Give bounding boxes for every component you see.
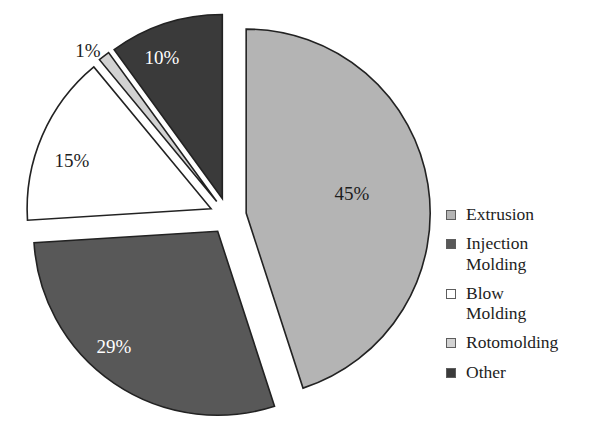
pie-chart-figure: 45%29%15%1%10% ExtrusionInjection Moldin… [0, 0, 610, 432]
legend-item-extrusion[interactable]: Extrusion [446, 204, 606, 224]
legend-item-label: Injection Molding [466, 233, 528, 274]
legend-item-rotomolding[interactable]: Rotomolding [446, 332, 606, 352]
legend-item-label: Blow Molding [466, 283, 526, 324]
pie-slice-label-extrusion: 45% [335, 183, 370, 204]
legend-swatch-blow-molding [446, 289, 456, 299]
pie-slice-label-blow-molding: 15% [55, 150, 90, 171]
pie-slice-injection-molding[interactable] [34, 231, 274, 415]
chart-legend: ExtrusionInjection MoldingBlow MoldingRo… [446, 204, 606, 391]
legend-item-label: Extrusion [466, 204, 534, 224]
pie-slice-label-rotomolding: 1% [75, 40, 101, 61]
pie-slice-label-other: 10% [145, 47, 180, 68]
legend-item-other[interactable]: Other [446, 362, 606, 382]
legend-swatch-rotomolding [446, 338, 456, 348]
pie-slice-extrusion[interactable] [246, 29, 430, 388]
legend-item-injection-molding[interactable]: Injection Molding [446, 233, 606, 274]
legend-swatch-other [446, 368, 456, 378]
legend-swatch-extrusion [446, 210, 456, 220]
legend-swatch-injection-molding [446, 239, 456, 249]
pie-slice-label-injection-molding: 29% [97, 336, 132, 357]
legend-item-blow-molding[interactable]: Blow Molding [446, 283, 606, 324]
legend-item-label: Rotomolding [466, 332, 558, 352]
pie-slice-group [27, 15, 430, 416]
legend-item-label: Other [466, 362, 506, 382]
